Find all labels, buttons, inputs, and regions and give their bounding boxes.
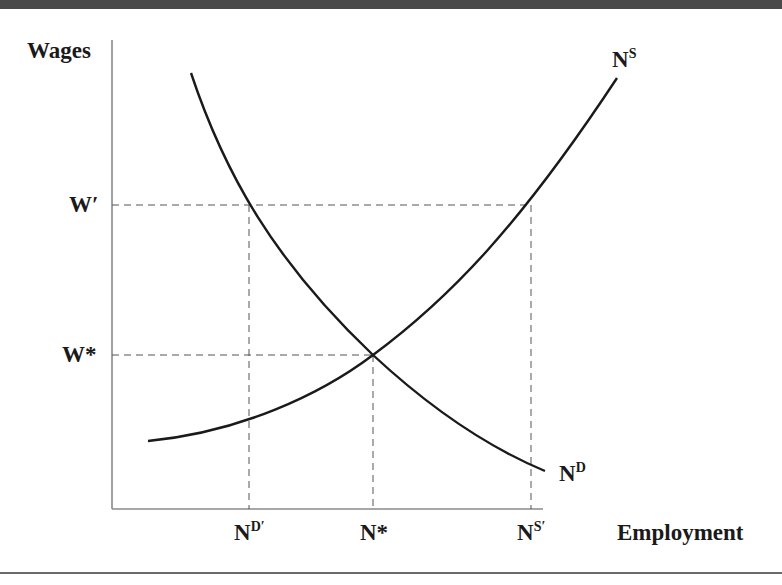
supply-curve-label: NS <box>612 48 636 71</box>
w-prime-tick-label: W′ <box>69 193 98 216</box>
ns-prime-tick-label: NS′ <box>517 521 545 544</box>
supply-curve <box>148 78 617 441</box>
ns-prime-sup: S′ <box>534 519 546 534</box>
bottom-divider <box>0 572 782 574</box>
labor-market-chart <box>0 0 782 585</box>
w-star-tick-label: W* <box>62 343 97 366</box>
nd-prime-sup: D′ <box>251 519 265 534</box>
x-axis-label: Employment <box>617 521 744 544</box>
nd-prime-tick-label: ND′ <box>234 521 265 544</box>
n-star-tick-label: N* <box>360 521 388 544</box>
nd-prime-base: N <box>234 520 251 545</box>
demand-label-base: N <box>559 461 576 486</box>
supply-label-sup: S <box>629 46 637 61</box>
demand-curve-label: ND <box>559 462 586 485</box>
y-axis-label: Wages <box>27 39 91 62</box>
demand-curve <box>191 73 545 471</box>
supply-label-base: N <box>612 47 629 72</box>
demand-label-sup: D <box>576 460 586 475</box>
ns-prime-base: N <box>517 520 534 545</box>
